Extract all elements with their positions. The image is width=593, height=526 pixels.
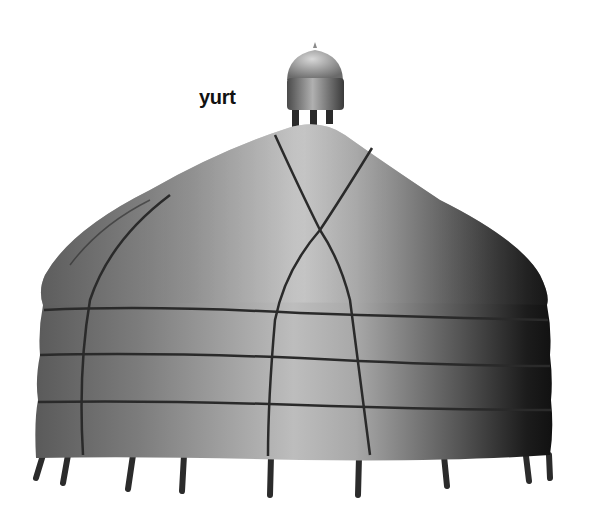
yurt-illustration [0, 0, 593, 526]
crown [287, 42, 344, 110]
legs [36, 455, 550, 495]
